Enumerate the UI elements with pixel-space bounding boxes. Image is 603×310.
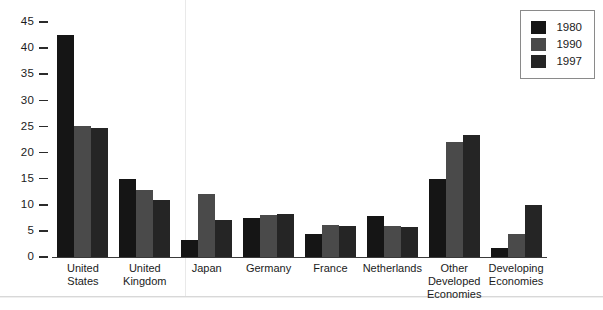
bar-1990: [446, 142, 463, 257]
x-axis-label: DevelopingEconomies: [485, 262, 547, 301]
y-axis-tick-mark: [39, 256, 48, 258]
y-axis-tick-mark: [39, 230, 48, 232]
y-axis-tick-label: 0: [27, 251, 34, 263]
y-axis-tick-label: 5: [27, 225, 34, 237]
y-axis-tick-mark: [39, 126, 48, 128]
bar-1980: [367, 216, 384, 257]
x-axis-label: Netherlands: [361, 262, 423, 301]
y-axis-tick-5: 5: [0, 224, 52, 238]
bar-1997: [525, 205, 542, 257]
y-axis-tick-40: 40: [0, 41, 52, 55]
y-axis-tick-mark: [39, 73, 48, 75]
bar-1990: [136, 190, 153, 257]
y-axis-tick-label: 10: [21, 199, 34, 211]
bar-1980: [243, 218, 260, 257]
bar-1980: [181, 240, 198, 257]
bar-1990: [508, 234, 525, 258]
bar-1980: [119, 179, 136, 257]
x-axis-label: Germany: [238, 262, 300, 301]
legend-label-1990: 1990: [556, 39, 582, 51]
y-axis-tick-mark: [39, 152, 48, 154]
y-axis-tick-15: 15: [0, 172, 52, 186]
y-axis-tick-mark: [39, 21, 48, 23]
x-axis-labels: UnitedStatesUnitedKingdomJapanGermanyFra…: [52, 262, 547, 301]
x-axis-label: UnitedStates: [52, 262, 114, 301]
y-axis-tick-30: 30: [0, 93, 52, 107]
bar-1997: [339, 226, 356, 257]
legend: 1980 1990 1997: [520, 10, 595, 79]
bar-group: [114, 22, 176, 257]
y-axis-tick-0: 0: [0, 250, 52, 264]
legend-swatch-1990: [531, 38, 546, 51]
x-axis-label: France: [300, 262, 362, 301]
bar-group: [52, 22, 114, 257]
bar-1980: [305, 234, 322, 258]
bar-group: [238, 22, 300, 257]
y-axis-tick-mark: [39, 47, 48, 49]
y-axis-tick-label: 25: [21, 121, 34, 133]
y-axis-tick-25: 25: [0, 119, 52, 133]
plot-area: [52, 22, 547, 257]
bar-1997: [463, 135, 480, 257]
bar-1997: [215, 220, 232, 257]
bar-1990: [260, 215, 277, 257]
x-axis-label: OtherDevelopedEconomies: [423, 262, 485, 301]
y-axis-tick-label: 20: [21, 147, 34, 159]
y-axis-tick-mark: [39, 178, 48, 180]
x-axis-label: Japan: [176, 262, 238, 301]
y-axis-tick-label: 35: [21, 68, 34, 80]
legend-swatch-1980: [531, 21, 546, 34]
y-axis-tick-45: 45: [0, 15, 52, 29]
bar-1997: [91, 128, 108, 258]
y-axis-tick-mark: [39, 204, 48, 206]
bar-1997: [401, 227, 418, 257]
y-axis-tick-20: 20: [0, 146, 52, 160]
legend-item: 1997: [531, 53, 582, 70]
legend-label-1997: 1997: [556, 56, 582, 68]
legend-item: 1980: [531, 19, 582, 36]
bar-1980: [57, 35, 74, 257]
legend-label-1980: 1980: [556, 22, 582, 34]
bar-chart: 051015202530354045 UnitedStatesUnitedKin…: [0, 0, 603, 310]
bar-1980: [429, 179, 446, 257]
bar-1997: [277, 214, 294, 257]
bar-group: [361, 22, 423, 257]
y-axis-tick-10: 10: [0, 198, 52, 212]
x-axis-label: UnitedKingdom: [114, 262, 176, 301]
y-axis-tick-35: 35: [0, 67, 52, 81]
bar-group: [176, 22, 238, 257]
bar-1997: [153, 200, 170, 257]
y-axis-tick-label: 45: [21, 16, 34, 28]
bar-1990: [74, 126, 91, 257]
x-axis-baseline: [52, 257, 547, 258]
bar-1990: [322, 225, 339, 257]
legend-item: 1990: [531, 36, 582, 53]
bar-1990: [198, 194, 215, 257]
y-axis-tick-label: 15: [21, 173, 34, 185]
y-axis-tick-label: 40: [21, 42, 34, 54]
bar-group: [300, 22, 362, 257]
y-axis-tick-mark: [39, 100, 48, 102]
bar-group: [423, 22, 485, 257]
legend-swatch-1997: [531, 55, 546, 68]
bar-1990: [384, 226, 401, 257]
bar-1980: [491, 248, 508, 257]
y-axis-tick-label: 30: [21, 95, 34, 107]
